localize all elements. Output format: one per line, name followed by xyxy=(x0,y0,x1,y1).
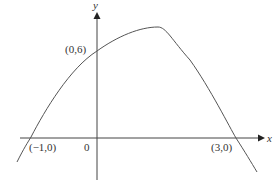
x-axis-arrow-icon xyxy=(258,135,265,142)
origin-label: 0 xyxy=(84,141,90,153)
y-axis-arrow-icon xyxy=(94,12,101,19)
x-intercept-left-label: (−1,0) xyxy=(29,141,57,154)
x-axis-label: x xyxy=(266,132,272,144)
x-intercept-right-label: (3,0) xyxy=(211,141,232,154)
y-axis-label: y xyxy=(92,0,98,11)
graph: y x (0,6) (−1,0) 0 (3,0) xyxy=(0,0,279,195)
y-intercept-label: (0,6) xyxy=(65,43,86,56)
